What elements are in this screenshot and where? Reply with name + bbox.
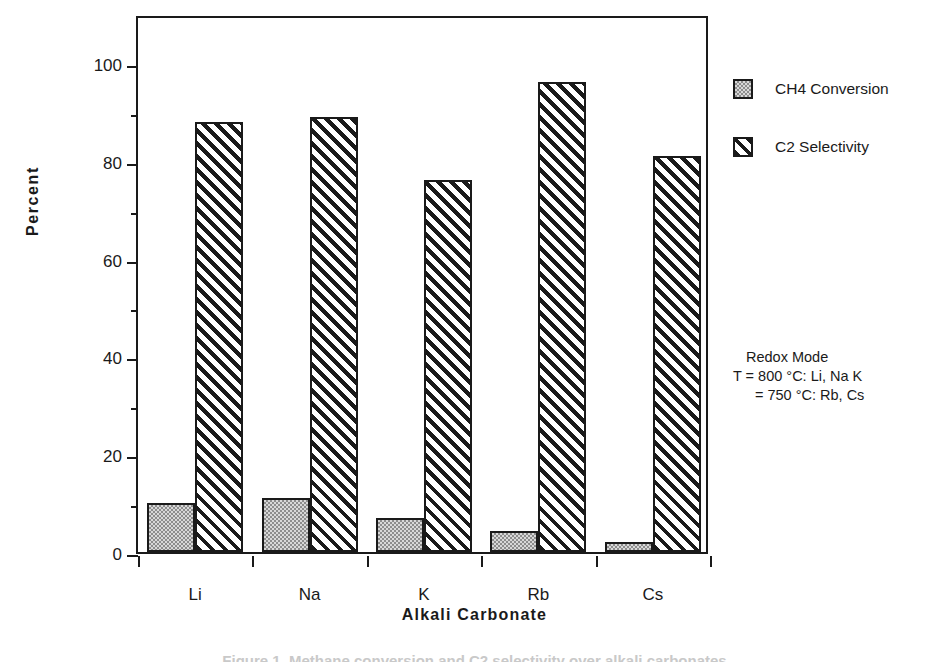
y-tick-label: 0 — [64, 545, 122, 565]
annotation-line-3: = 750 °C: Rb, Cs — [733, 386, 864, 405]
stipple-swatch-icon — [733, 79, 753, 99]
annotation-block: Redox Mode T = 800 °C: Li, Na K = 750 °C… — [733, 348, 864, 405]
bar-li-conversion — [147, 503, 195, 552]
bar-rb-selectivity — [538, 82, 586, 552]
legend-label: C2 Selectivity — [775, 138, 869, 156]
x-tick — [138, 556, 140, 567]
x-tick — [252, 556, 254, 567]
x-axis-title: Alkali Carbonate — [0, 606, 949, 624]
bar-k-conversion — [376, 518, 424, 552]
y-tick-minor — [131, 506, 138, 508]
bar-na-selectivity — [310, 117, 358, 552]
y-tick-major — [127, 262, 138, 264]
annotation-line-2: T = 800 °C: Li, Na K — [733, 367, 864, 386]
bar-li-selectivity — [195, 122, 243, 552]
bar-rb-conversion — [490, 531, 538, 552]
legend-item-c2-selectivity: C2 Selectivity — [733, 137, 869, 157]
legend-label: CH4 Conversion — [775, 80, 889, 98]
y-tick-label: 40 — [64, 349, 122, 369]
y-tick-major — [127, 164, 138, 166]
x-tick — [367, 556, 369, 567]
y-tick-major — [127, 66, 138, 68]
y-tick-major — [127, 457, 138, 459]
y-tick-minor — [131, 115, 138, 117]
y-tick-major — [127, 359, 138, 361]
bar-na-conversion — [262, 498, 310, 552]
y-axis-title: Percent — [24, 166, 42, 236]
x-tick — [481, 556, 483, 567]
bar-cs-selectivity — [653, 156, 701, 552]
x-tick-label: Li — [189, 585, 202, 605]
legend-item-ch4-conversion: CH4 Conversion — [733, 79, 889, 99]
figure-caption: Figure 1. Methane conversion and C2 sele… — [0, 652, 949, 662]
x-tick-label: Rb — [528, 585, 550, 605]
x-tick-label: Cs — [642, 585, 663, 605]
hatch-swatch-icon — [733, 137, 753, 157]
y-tick-minor — [131, 310, 138, 312]
y-tick-label: 80 — [64, 154, 122, 174]
x-tick-label: Na — [299, 585, 321, 605]
y-tick-label: 20 — [64, 447, 122, 467]
x-tick — [596, 556, 598, 567]
annotation-line-1: Redox Mode — [733, 348, 864, 367]
y-tick-minor — [131, 213, 138, 215]
y-tick-minor — [131, 408, 138, 410]
y-tick-major — [127, 555, 138, 557]
x-tick-label: K — [418, 585, 429, 605]
plot-area: 020406080100 LiNaKRbCs — [136, 16, 708, 554]
bar-cs-conversion — [605, 542, 653, 552]
bar-k-selectivity — [424, 180, 472, 552]
y-tick-label: 60 — [64, 252, 122, 272]
y-tick-label: 100 — [64, 56, 122, 76]
x-tick — [710, 556, 712, 567]
